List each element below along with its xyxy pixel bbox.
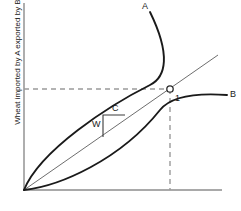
offer-curve-diagram: Wheat imported by A exported by B A B 1 … — [0, 0, 241, 211]
triangle-vertical-label: W — [92, 120, 101, 129]
equilibrium-point-marker — [167, 86, 173, 92]
triangle-horizontal-label: C — [112, 104, 119, 113]
equilibrium-point-label: 1 — [175, 94, 180, 103]
curve-a-label: A — [142, 2, 148, 11]
offer-curve-b — [24, 94, 227, 190]
curve-b-label: B — [230, 90, 236, 99]
forty-five-degree-ray — [24, 55, 218, 190]
y-axis-label: Wheat imported by A exported by B — [13, 0, 27, 142]
figure-canvas — [0, 0, 241, 211]
offer-curve-a — [24, 12, 164, 190]
slope-triangle-legs — [103, 115, 125, 137]
y-axis-label-text: Wheat imported by A exported by B — [13, 0, 22, 142]
